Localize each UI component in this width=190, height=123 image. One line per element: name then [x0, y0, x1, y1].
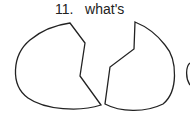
partial-shape — [187, 63, 190, 85]
egg-right-half — [105, 22, 175, 110]
egg-left-half — [15, 23, 101, 109]
cracked-egg-figure — [0, 0, 190, 123]
